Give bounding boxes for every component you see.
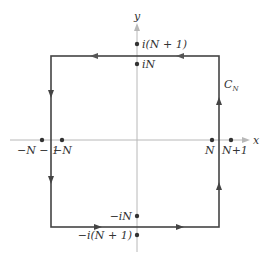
arrow-down-left-icon — [48, 90, 54, 98]
point-right-outer — [229, 138, 233, 142]
arrow-left-top-right-icon — [176, 53, 184, 59]
diagram-canvas: x y CN i(N + 1) iN −iN −i(N + 1) −N − 1 … — [0, 0, 275, 263]
label-right-outer: N+1 — [221, 144, 248, 157]
point-bottom-inner — [135, 214, 139, 218]
arrow-up-right-icon — [216, 182, 222, 190]
arrow-right-bottom-right-icon — [176, 224, 184, 230]
y-axis-arrow-icon — [134, 23, 140, 31]
x-axis-arrow-icon — [242, 137, 250, 143]
label-bottom-inner: −iN — [110, 210, 133, 223]
contour-square — [51, 56, 219, 227]
point-top-outer — [135, 42, 139, 46]
contour-label-sub: N — [231, 85, 239, 93]
label-top-inner: iN — [142, 58, 156, 71]
point-bottom-outer — [135, 233, 139, 237]
label-right-inner: N — [204, 144, 215, 157]
label-bottom-outer: −i(N + 1) — [78, 229, 132, 242]
x-axis-label: x — [253, 134, 260, 147]
point-right-inner — [210, 138, 214, 142]
point-top-inner — [135, 62, 139, 66]
point-left-inner — [60, 138, 64, 142]
arrow-down-left-lower-icon — [48, 176, 54, 184]
arrow-left-top-icon — [90, 53, 98, 59]
arrow-up-right-upper-icon — [216, 97, 222, 105]
y-axis-label: y — [133, 10, 141, 23]
label-left-inner: −N — [53, 144, 72, 157]
label-top-outer: i(N + 1) — [142, 38, 187, 51]
contour-label: CN — [224, 78, 239, 93]
point-left-outer — [40, 138, 44, 142]
